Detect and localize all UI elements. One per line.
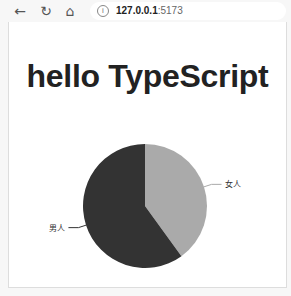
pie-label: 男人 [49,224,65,233]
label-leader-line [204,184,222,186]
pie-chart: 女人男人 [0,0,291,296]
pie-label: 女人 [225,179,241,189]
pie-slices [83,144,207,268]
label-leader-line [68,225,86,227]
